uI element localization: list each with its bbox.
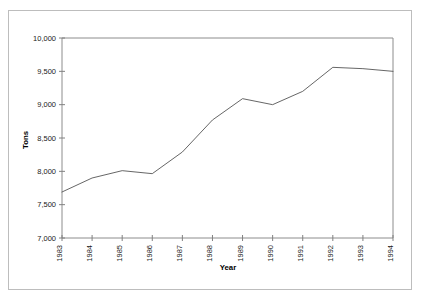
x-tick-label: 1991: [296, 245, 305, 262]
x-tick-label: 1990: [266, 245, 275, 262]
x-tick-label: 1989: [236, 245, 245, 262]
y-tick-label: 7,500: [37, 200, 56, 209]
x-tick-label: 1992: [326, 245, 335, 262]
x-tick-label: 1985: [115, 245, 124, 262]
x-tick-label: 1987: [175, 245, 184, 262]
x-tick-label: 1994: [386, 245, 395, 262]
y-tick-label: 7,000: [37, 234, 56, 243]
x-tick-label: 1988: [205, 245, 214, 262]
y-tick-label: 8,500: [37, 134, 56, 143]
y-tick-label: 9,000: [37, 100, 56, 109]
x-tick-label: 1983: [55, 245, 64, 262]
y-axis-title: Tons: [21, 130, 30, 149]
line-chart: 10,0009,5009,0008,5008,0007,5007,000 198…: [0, 0, 422, 303]
x-tick-label: 1984: [85, 245, 94, 262]
x-tick-label: 1986: [145, 245, 154, 262]
y-tick-label: 8,000: [37, 167, 56, 176]
y-axis-ticks: 10,0009,5009,0008,5008,0007,5007,000: [33, 34, 65, 243]
figure-canvas: 10,0009,5009,0008,5008,0007,5007,000 198…: [0, 0, 422, 303]
y-tick-label: 9,500: [37, 67, 56, 76]
y-tick-label: 10,000: [33, 34, 56, 43]
x-axis-ticks: 1983198419851986198719881989199019911992…: [55, 235, 395, 262]
x-axis-title: Year: [220, 263, 236, 272]
x-tick-label: 1993: [356, 245, 365, 262]
